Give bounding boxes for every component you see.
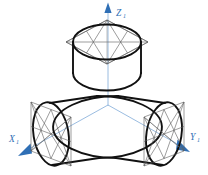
axis-y-line <box>108 105 181 146</box>
top-cylinder <box>66 20 148 91</box>
left-cylinder <box>29 96 162 168</box>
axis-x-arrowhead <box>18 144 32 157</box>
isometric-figure: Z 1 X 1 Y 1 <box>0 0 208 175</box>
axis-x-label-subscript: 1 <box>16 139 19 145</box>
axis-x-label: X <box>8 134 16 144</box>
axis-z-arrowhead <box>104 3 111 14</box>
top-cylinder-construction <box>66 20 148 64</box>
axis-z-label-subscript: 1 <box>123 13 126 19</box>
axis-z-label: Z <box>116 8 122 18</box>
right-cylinder-construction <box>144 102 184 166</box>
left-cylinder-construction <box>31 102 71 166</box>
right-cylinder <box>53 96 186 168</box>
isometric-axes <box>18 3 190 157</box>
axis-y-label: Y <box>190 132 197 142</box>
top-cylinder-bottom-arc <box>73 73 141 91</box>
axis-y-label-subscript: 1 <box>197 137 200 143</box>
axis-x <box>18 105 108 156</box>
technical-drawing-canvas: Z 1 X 1 Y 1 <box>0 0 208 175</box>
